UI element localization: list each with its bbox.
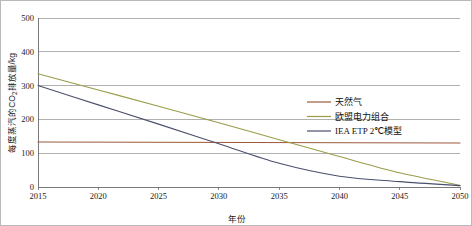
x-tick-label: 2025 — [150, 191, 167, 201]
legend: 天然气欧盟电力组合IEA ETP 2℃模型 — [307, 96, 402, 136]
svg-text:每度蒸汽的CO2排放量/kg: 每度蒸汽的CO2排放量/kg — [7, 53, 18, 153]
axis-lines — [38, 18, 460, 187]
x-tick-labels: 20152020202520302035204020452050 — [30, 191, 469, 201]
y-tick-label: 100 — [21, 148, 34, 158]
y-tick-label: 200 — [21, 114, 34, 124]
legend-label: IEA ETP 2℃模型 — [335, 126, 402, 136]
x-axis-title: 年份 — [228, 214, 246, 224]
y-tick-label: 500 — [21, 13, 34, 23]
y-axis-title-post: 排放量/kg — [7, 53, 17, 92]
x-tick-label: 2040 — [331, 191, 348, 201]
y-tick-label: 300 — [21, 81, 34, 91]
chart-figure: 0100200300400500 20152020202520302035204… — [0, 0, 472, 226]
legend-label: 欧盟电力组合 — [335, 111, 389, 122]
x-tick-label: 2030 — [210, 191, 227, 201]
series-line — [38, 142, 460, 143]
y-axis-title-pre: 每度蒸汽的CO — [7, 95, 17, 153]
x-tick-label: 2045 — [391, 191, 408, 201]
x-tick-label: 2035 — [271, 191, 288, 201]
x-tick-label: 2015 — [30, 191, 47, 201]
legend-label: 天然气 — [335, 96, 362, 107]
line-chart: 0100200300400500 20152020202520302035204… — [1, 1, 472, 226]
y-tick-labels: 0100200300400500 — [21, 13, 34, 192]
y-axis-title: 每度蒸汽的CO2排放量/kg — [7, 53, 18, 153]
y-tick-label: 400 — [21, 47, 34, 57]
x-tick-label: 2020 — [90, 191, 107, 201]
x-tick-label: 2050 — [452, 191, 469, 201]
